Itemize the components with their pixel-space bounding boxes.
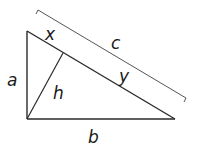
- label-b: b: [88, 127, 99, 147]
- label-y: y: [118, 66, 130, 86]
- label-x: x: [44, 24, 56, 44]
- diagram-canvas: x c y h a b: [0, 0, 199, 154]
- label-c: c: [111, 33, 121, 53]
- label-a: a: [7, 70, 17, 90]
- hypotenuse-c: [27, 31, 175, 119]
- label-h: h: [53, 83, 64, 103]
